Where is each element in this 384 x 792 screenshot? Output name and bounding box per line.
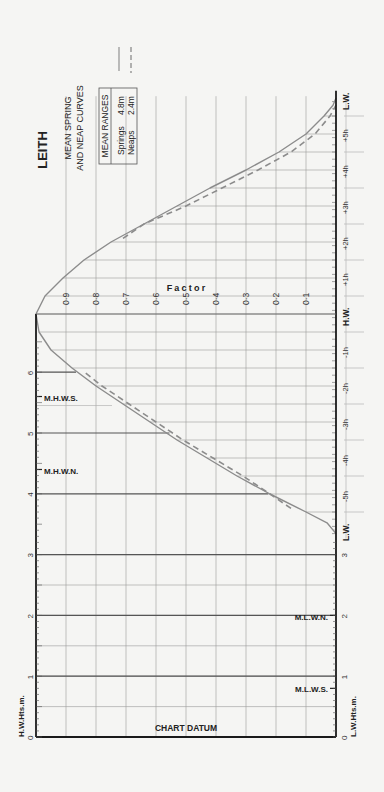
subtitle-line1: MEAN SPRING (63, 96, 73, 159)
time-tick-label: -3h (341, 419, 350, 430)
lw-height-tick-label: 3 (340, 553, 349, 558)
hw-label: H.W. (341, 308, 351, 326)
mhws-label: M.H.W.S. (44, 394, 78, 403)
time-tick-label: +4h (341, 165, 350, 178)
lw-height-tick-label: 0 (340, 735, 349, 740)
time-tick-label: +3h (341, 201, 350, 214)
time-tick-label: -2h (341, 383, 350, 394)
legend-title: MEAN RANGES (100, 94, 110, 157)
chart-canvas: LEITH MEAN SPRING AND NEAP CURVES MEAN R… (0, 0, 384, 792)
station-title: LEITH (35, 131, 50, 169)
grid (36, 96, 364, 737)
time-tick-label: -5h (341, 491, 350, 502)
lw-bottom-label: L.W. (341, 524, 351, 541)
factor-tick-label: 0·5 (181, 292, 191, 305)
hw-height-tick-label: 4 (26, 492, 35, 497)
factor-tick-label: 0·1 (301, 292, 311, 305)
legend-springs-label: Springs (116, 126, 126, 155)
factor-tick-label: 0·9 (61, 292, 71, 305)
hw-height-tick-label: 3 (26, 553, 35, 558)
lw-heights-axis-title: L.W.Hts.m. (349, 696, 358, 737)
hw-heights-axis-title: H.W.Hts.m. (17, 695, 26, 737)
factor-tick-label: 0·7 (121, 292, 131, 305)
time-tick-label: +5h (341, 129, 350, 142)
legend-neaps-value: 2.4m (126, 96, 136, 115)
legend-neaps-label: Neaps (126, 130, 136, 155)
legend-springs-value: 4.8m (116, 96, 126, 115)
hw-height-tick-label: 2 (26, 613, 35, 618)
time-tick-label: -1h (341, 347, 350, 358)
factor-tick-label: 0·8 (91, 292, 101, 305)
time-tick-label: -4h (341, 455, 350, 466)
chart-datum-label: CHART DATUM (155, 723, 217, 733)
factor-tick-label: 0·6 (151, 292, 161, 305)
subtitle-line2: AND NEAP CURVES (75, 85, 85, 171)
lw-height-tick-label: 1 (340, 674, 349, 679)
time-tick-label: +1h (341, 273, 350, 286)
factor-tick-label: 0·3 (241, 292, 251, 305)
mlwn-label: M.L.W.N. (295, 613, 328, 622)
mlws-label: M.L.W.S. (295, 685, 328, 694)
tick-labels: 0·10·20·30·40·50·60·70·80·9-5h-4h-3h-2h-… (26, 129, 350, 740)
hw-height-tick-label: 1 (26, 674, 35, 679)
tidal-curve-chart: LEITH MEAN SPRING AND NEAP CURVES MEAN R… (0, 0, 384, 792)
lw-top-label: L.W. (341, 93, 351, 110)
hw-height-tick-label: 0 (26, 735, 35, 740)
hw-height-tick-label: 6 (26, 370, 35, 375)
lw-height-tick-label: 2 (340, 613, 349, 618)
factor-tick-label: 0·4 (211, 292, 221, 305)
mhwn-label: M.H.W.N. (44, 467, 78, 476)
factor-tick-label: 0·2 (271, 292, 281, 305)
labels: LEITH MEAN SPRING AND NEAP CURVES MEAN R… (17, 47, 358, 737)
hw-height-tick-label: 5 (26, 431, 35, 436)
time-tick-label: +2h (341, 237, 350, 250)
factor-axis-label: Factor (167, 283, 208, 293)
